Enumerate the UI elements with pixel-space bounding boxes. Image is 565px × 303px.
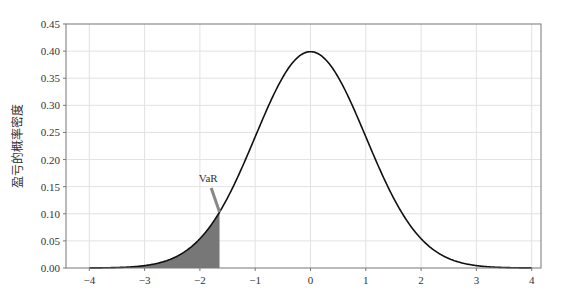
x-tick-label: −1 <box>249 274 261 286</box>
y-tick-label: 0.30 <box>41 99 61 111</box>
x-axis-ticks: −4−3−2−101234 <box>83 268 535 286</box>
y-tick-label: 0.00 <box>41 262 61 274</box>
plot-frame <box>66 24 541 268</box>
x-tick-label: 1 <box>363 274 369 286</box>
x-tick-label: 2 <box>418 274 424 286</box>
y-tick-label: 0.05 <box>41 235 61 247</box>
y-tick-label: 0.35 <box>41 72 61 84</box>
x-tick-label: −3 <box>139 274 151 286</box>
y-tick-label: 0.20 <box>41 154 61 166</box>
y-tick-label: 0.40 <box>41 45 61 57</box>
var-annotation-label: VaR <box>199 172 219 184</box>
y-tick-label: 0.25 <box>41 126 61 138</box>
y-tick-label: 0.15 <box>41 181 61 193</box>
y-axis-label: 盈亏的概率密度 <box>10 104 25 188</box>
y-axis-ticks: 0.000.050.100.150.200.250.300.350.400.45 <box>41 18 66 274</box>
x-tick-label: −2 <box>194 274 206 286</box>
var-annotation-arrow <box>211 188 219 212</box>
y-tick-label: 0.45 <box>41 18 61 30</box>
x-tick-label: −4 <box>83 274 95 286</box>
x-tick-label: 0 <box>308 274 314 286</box>
pdf-chart: −4−3−2−101234 0.000.050.100.150.200.250.… <box>0 0 565 303</box>
grid-lines <box>66 24 541 268</box>
y-tick-label: 0.10 <box>41 208 61 220</box>
x-tick-label: 3 <box>474 274 480 286</box>
x-tick-label: 4 <box>529 274 535 286</box>
